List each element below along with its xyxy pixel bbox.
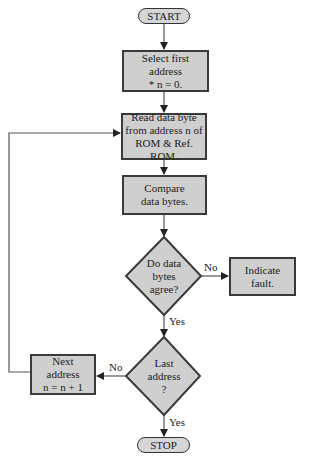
compare-line2: data bytes. — [141, 195, 188, 208]
last-line3: ? — [162, 383, 167, 396]
read-line3: ROM & Ref. ROM. — [123, 137, 205, 163]
read-data-byte-box: Read data byte from address n of ROM & R… — [121, 113, 207, 160]
compare-line1: Compare — [144, 182, 184, 195]
fault-line1: Indicate — [245, 264, 280, 277]
indicate-fault-box: Indicate fault. — [229, 257, 296, 296]
edge-label-last-no: No — [109, 361, 122, 373]
start-label: START — [147, 10, 180, 22]
select-line1: Select first — [142, 52, 189, 65]
edge-label-last-yes: Yes — [169, 416, 185, 428]
agree-line3: agree? — [150, 283, 179, 296]
select-first-address-box: Select first address * n = 0. — [122, 50, 209, 92]
next-line1: Next — [52, 355, 73, 368]
last-line1: Last — [155, 357, 174, 370]
next-line2: address — [47, 368, 80, 381]
last-line2: address — [148, 370, 181, 383]
next-address-box: Next address n = n + 1 — [30, 354, 96, 395]
agree-line1: Do data — [147, 257, 182, 270]
select-line3: * n = 0. — [149, 78, 183, 91]
start-terminal: START — [138, 8, 190, 24]
stop-label: STOP — [150, 439, 177, 451]
next-line3: n = n + 1 — [43, 381, 83, 394]
decision-last-address: Last address ? — [134, 356, 194, 396]
read-line2: from address n of — [125, 124, 202, 137]
compare-box: Compare data bytes. — [122, 175, 207, 215]
read-line1: Read data byte — [131, 111, 196, 124]
decision-agree: Do data bytes agree? — [134, 256, 194, 296]
stop-terminal: STOP — [137, 437, 190, 453]
fault-line2: fault. — [251, 277, 274, 290]
edge-label-agree-yes: Yes — [169, 315, 185, 327]
agree-line2: bytes — [152, 270, 175, 283]
select-line2: address — [149, 65, 182, 78]
edge-label-agree-no: No — [204, 261, 217, 273]
